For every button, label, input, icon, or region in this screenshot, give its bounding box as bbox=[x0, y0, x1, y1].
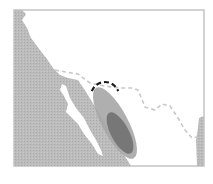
map bbox=[0, 0, 213, 184]
